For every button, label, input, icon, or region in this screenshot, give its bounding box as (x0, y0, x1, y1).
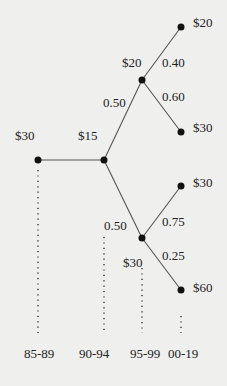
node-label-n2: $20 (122, 56, 142, 69)
node-n6 (178, 183, 185, 190)
period-label-95-99: 95-99 (130, 347, 160, 360)
prob-label-n2-n4: 0.60 (162, 90, 185, 103)
node-n0 (35, 157, 42, 164)
node-label-n5: $30 (123, 256, 143, 269)
prob-label-n5-n7: 0.25 (162, 249, 185, 262)
edge-n2-n3 (142, 27, 181, 80)
edge-n5-n7 (142, 238, 181, 290)
node-label-n7: $60 (193, 281, 213, 294)
node-n4 (178, 129, 185, 136)
period-guides (38, 170, 181, 333)
node-label-n0: $30 (15, 129, 35, 142)
node-n3 (178, 24, 185, 31)
node-label-n1: $15 (78, 129, 98, 142)
period-label-90-94: 90-94 (79, 347, 109, 360)
node-label-n6: $30 (193, 176, 213, 189)
tree-edges (38, 27, 181, 290)
prob-label-n5-n6: 0.75 (162, 215, 185, 228)
edge-n5-n6 (142, 186, 181, 238)
period-label-85-89: 85-89 (24, 347, 54, 360)
node-n5 (139, 235, 146, 242)
node-label-n3: $20 (193, 16, 213, 29)
prob-label-n1-n2: 0.50 (103, 96, 126, 109)
edge-n1-n2 (104, 80, 142, 160)
node-n1 (101, 157, 108, 164)
edge-n2-n4 (142, 80, 181, 132)
node-label-n4: $30 (193, 121, 213, 134)
prob-label-n2-n3: 0.40 (162, 56, 185, 69)
node-n2 (139, 77, 146, 84)
tree-diagram (0, 0, 227, 386)
prob-label-n1-n5: 0.50 (104, 219, 127, 232)
node-n7 (178, 287, 185, 294)
period-label-00-19: 00-19 (168, 347, 198, 360)
